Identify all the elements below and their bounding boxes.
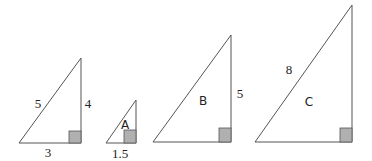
triangle-c <box>255 5 352 142</box>
triangle-b-height-label: 5 <box>237 87 244 100</box>
right-angle-marker <box>69 131 81 143</box>
right-angle-marker <box>219 128 231 142</box>
triangle-b <box>153 35 231 142</box>
original-base-label: 3 <box>45 146 52 159</box>
original-height-label: 4 <box>85 97 92 110</box>
triangle-c-name-label: C <box>305 96 313 108</box>
triangle-original <box>19 58 81 143</box>
triangle-a-name-label: A <box>121 119 129 131</box>
right-angle-marker <box>340 128 352 142</box>
triangle-a-base-label: 1.5 <box>112 147 128 160</box>
triangle-c-hypotenuse-label: 8 <box>286 63 293 76</box>
original-hypotenuse-label: 5 <box>35 97 42 110</box>
triangle-b-name-label: B <box>199 95 207 107</box>
triangles-diagram <box>0 0 372 161</box>
